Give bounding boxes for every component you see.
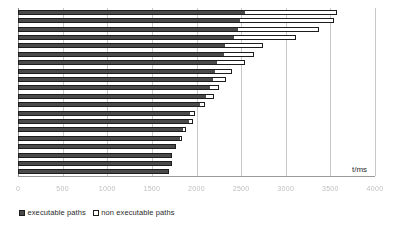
bar-segment-executable xyxy=(18,77,213,82)
bar-segment-non-executable xyxy=(180,136,182,141)
bar-segment-executable xyxy=(18,94,206,99)
x-tick-label: 1500 xyxy=(143,184,160,194)
bar-segment-non-executable xyxy=(200,102,205,107)
x-tick-label: 0 xyxy=(16,184,20,194)
bar-segment-non-executable xyxy=(210,85,219,90)
bar-chart: 05001000150020002500300035004000 t/ms ex… xyxy=(0,0,395,232)
bar-series-container xyxy=(18,8,375,176)
bar-segment-non-executable xyxy=(189,119,193,124)
bar-row xyxy=(18,27,319,32)
x-tick-label: 2000 xyxy=(188,184,205,194)
legend-label-non-executable: non executable paths xyxy=(101,207,174,218)
bar-segment-non-executable xyxy=(240,18,334,23)
bar-segment-executable xyxy=(18,119,189,124)
bar-row xyxy=(18,43,263,48)
bar-segment-non-executable xyxy=(215,69,232,74)
bar-segment-executable xyxy=(18,161,172,166)
bar-segment-non-executable xyxy=(238,27,318,32)
bar-row xyxy=(18,85,219,90)
bar-row xyxy=(18,35,296,40)
x-tick-label: 2500 xyxy=(233,184,250,194)
bar-segment-executable xyxy=(18,18,240,23)
bar-segment-non-executable xyxy=(175,144,176,149)
bar-segment-non-executable xyxy=(206,94,214,99)
bar-segment-executable xyxy=(18,102,200,107)
bar-segment-executable xyxy=(18,69,215,74)
bar-segment-executable xyxy=(18,144,175,149)
bar-row xyxy=(18,153,172,158)
bar-row xyxy=(18,127,186,132)
x-tick-label: 3000 xyxy=(277,184,294,194)
bar-row xyxy=(18,111,195,116)
chart-legend: executable paths non executable paths xyxy=(19,207,175,218)
bar-segment-executable xyxy=(18,85,210,90)
bar-segment-non-executable xyxy=(234,35,296,40)
x-axis-title: t/ms xyxy=(352,165,367,175)
x-tick-label: 4000 xyxy=(367,184,384,194)
bar-segment-non-executable xyxy=(183,127,186,132)
legend-label-executable: executable paths xyxy=(28,207,86,218)
x-tick-label: 1000 xyxy=(99,184,116,194)
bar-segment-executable xyxy=(18,43,225,48)
bar-row xyxy=(18,69,232,74)
bar-row xyxy=(18,10,337,15)
bar-row xyxy=(18,18,334,23)
x-tick-label: 3500 xyxy=(322,184,339,194)
legend-swatch-icon-executable xyxy=(19,210,25,216)
bar-segment-non-executable xyxy=(213,77,225,82)
bar-row xyxy=(18,102,205,107)
bar-row xyxy=(18,52,254,57)
bar-segment-executable xyxy=(18,10,245,15)
bar-segment-non-executable xyxy=(217,60,245,65)
bar-segment-executable xyxy=(18,111,190,116)
bar-segment-executable xyxy=(18,60,217,65)
gridline xyxy=(375,8,376,176)
bar-segment-non-executable xyxy=(225,43,263,48)
bar-segment-executable xyxy=(18,169,169,174)
bar-row xyxy=(18,136,182,141)
bar-segment-executable xyxy=(18,127,183,132)
x-axis-tick-labels: 05001000150020002500300035004000 xyxy=(0,184,395,198)
bar-segment-non-executable xyxy=(245,10,337,15)
bar-segment-executable xyxy=(18,136,180,141)
bar-row xyxy=(18,169,169,174)
bar-row xyxy=(18,144,176,149)
bar-segment-non-executable xyxy=(190,111,194,116)
bar-row xyxy=(18,161,172,166)
x-axis-line xyxy=(18,176,375,177)
bar-segment-executable xyxy=(18,52,224,57)
legend-item-non-executable-paths: non executable paths xyxy=(93,207,175,218)
legend-swatch-icon-non-executable xyxy=(93,210,99,216)
bar-segment-executable xyxy=(18,153,172,158)
legend-item-executable-paths: executable paths xyxy=(19,207,86,218)
bar-segment-non-executable xyxy=(224,52,253,57)
plot-area xyxy=(18,8,375,176)
bar-row xyxy=(18,77,226,82)
x-tick-label: 500 xyxy=(56,184,69,194)
bar-segment-executable xyxy=(18,35,234,40)
bar-segment-executable xyxy=(18,27,238,32)
bar-row xyxy=(18,60,245,65)
bar-row xyxy=(18,94,214,99)
bar-row xyxy=(18,119,193,124)
